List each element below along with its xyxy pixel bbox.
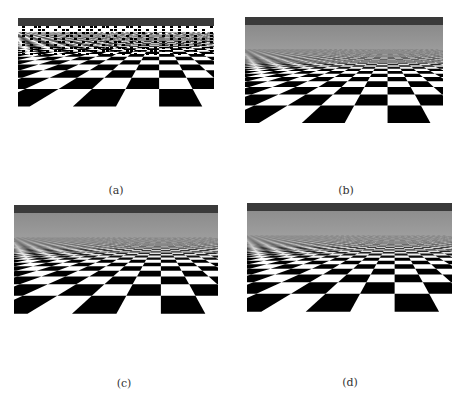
panel-d-image [247,203,452,372]
panel-a-image [18,18,214,182]
panel-d-caption: (d) [330,376,370,389]
checkerboard-d [247,203,452,372]
panel-b-caption: (b) [326,184,366,197]
checkerboard-b [245,17,443,180]
panel-a-caption: (a) [96,184,136,197]
panel-c-caption: (c) [104,377,144,390]
panel-b-image [245,17,443,180]
checkerboard-c [14,205,218,374]
checkerboard-a [18,18,214,182]
panel-c-image [14,205,218,374]
